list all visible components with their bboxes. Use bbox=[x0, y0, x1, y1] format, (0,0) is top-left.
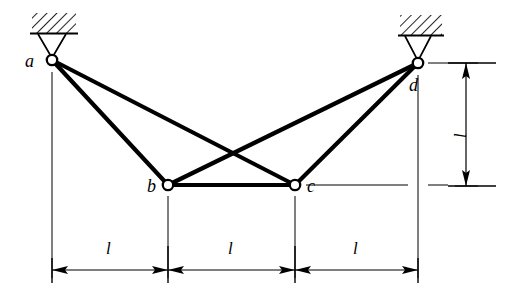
node-label-c: c bbox=[307, 177, 315, 195]
member-d-b bbox=[168, 63, 418, 185]
diagram-canvas bbox=[0, 0, 511, 295]
joint-c bbox=[290, 180, 300, 190]
node-label-b: b bbox=[147, 177, 156, 195]
joint-markers bbox=[47, 55, 423, 190]
vertical-dimension-line bbox=[448, 63, 496, 186]
joint-b bbox=[163, 180, 173, 190]
hatch-block-a bbox=[32, 13, 76, 33]
member-a-c bbox=[52, 60, 295, 185]
joint-d bbox=[413, 58, 423, 68]
dim-label-span-1: l bbox=[106, 240, 111, 257]
dim-label-height: l bbox=[452, 133, 469, 138]
support-d bbox=[398, 15, 444, 61]
dim-label-span-2: l bbox=[228, 240, 233, 257]
truss-diagram-figure: a b c d l l l l bbox=[0, 0, 511, 295]
member-d-c bbox=[295, 63, 418, 185]
node-label-a: a bbox=[25, 52, 34, 70]
dim-label-span-3: l bbox=[353, 240, 358, 257]
support-a bbox=[30, 13, 78, 58]
member-a-b bbox=[52, 60, 168, 185]
hatch-block-d bbox=[400, 15, 442, 35]
node-label-d: d bbox=[409, 76, 418, 94]
joint-a bbox=[47, 55, 57, 65]
truss-members bbox=[52, 60, 418, 185]
